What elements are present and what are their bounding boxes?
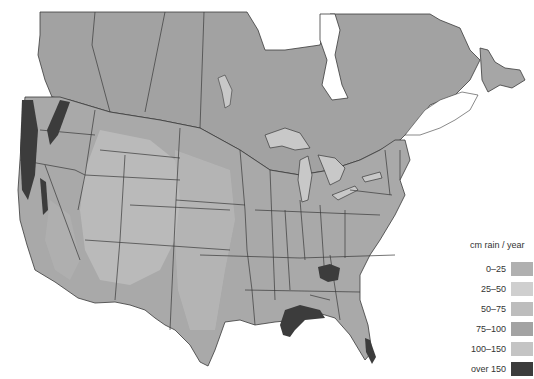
legend-label: 0–25 <box>486 264 506 274</box>
legend-item-75-100: 75–100 <box>470 322 534 336</box>
precipitation-map <box>0 0 534 379</box>
legend-label: 25–50 <box>481 284 506 294</box>
legend-swatch <box>511 302 533 316</box>
precip-over-150-florida <box>365 338 376 364</box>
legend-item-over-150: over 150 <box>470 362 534 376</box>
legend-item-100-150: 100–150 <box>470 342 534 356</box>
legend-label: over 150 <box>471 364 506 374</box>
legend-item-25-50: 25–50 <box>470 282 534 296</box>
legend-item-50-75: 50–75 <box>470 302 534 316</box>
newfoundland <box>480 48 525 92</box>
precip-over-150-gulf-coast <box>280 305 325 337</box>
legend-swatch <box>511 362 533 376</box>
legend-swatch <box>511 262 533 276</box>
legend-title: cm rain / year <box>470 240 534 250</box>
legend-item-0-25: 0–25 <box>470 262 534 276</box>
legend-label: 100–150 <box>471 344 506 354</box>
legend-label: 50–75 <box>481 304 506 314</box>
legend-swatch <box>511 342 533 356</box>
legend-label: 75–100 <box>476 324 506 334</box>
legend-swatch <box>511 282 533 296</box>
legend-swatch <box>511 322 533 336</box>
